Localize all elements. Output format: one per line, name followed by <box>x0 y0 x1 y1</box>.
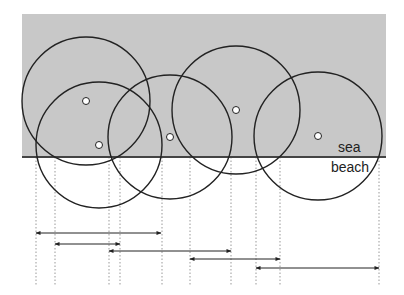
sensor-dot-icon <box>315 133 322 140</box>
sensor-dot-icon <box>167 134 174 141</box>
coverage-interval-arrows <box>36 233 379 268</box>
sensor-dot-icon <box>233 107 240 114</box>
vertical-guide-lines <box>36 157 379 285</box>
sensor-dot-icon <box>96 142 103 149</box>
sea-label: sea <box>338 139 361 155</box>
beach-label: beach <box>331 159 369 175</box>
coverage-diagram: sea beach <box>0 0 404 295</box>
sensor-dot-icon <box>83 98 90 105</box>
